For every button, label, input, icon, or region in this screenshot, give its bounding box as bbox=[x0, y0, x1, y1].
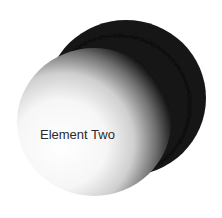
element-two-shape[interactable] bbox=[17, 48, 171, 196]
element-two[interactable]: Element Two bbox=[17, 48, 171, 196]
diagram-canvas: Element Two bbox=[0, 0, 222, 218]
element-two-label: Element Two bbox=[40, 127, 115, 142]
